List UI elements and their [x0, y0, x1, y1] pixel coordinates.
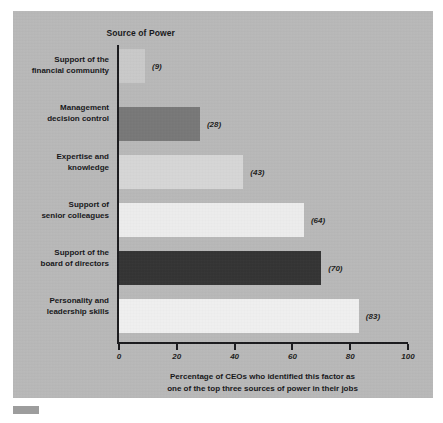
bar-senior-colleagues[interactable] — [119, 203, 304, 237]
category-label-line: Expertise and — [13, 152, 109, 163]
bar-expertise-knowledge[interactable] — [119, 155, 243, 189]
category-label-expertise-knowledge: Expertise and knowledge — [13, 152, 109, 173]
y-axis-line — [117, 45, 119, 342]
x-axis-tick-label: 0 — [117, 352, 121, 361]
x-axis-tick-label: 20 — [172, 352, 181, 361]
bar-financial-community[interactable] — [119, 49, 145, 83]
x-axis-caption-line: one of the top three sources of power in… — [117, 383, 408, 395]
x-axis-tick-mark — [176, 344, 178, 350]
x-axis-tick-label: 60 — [288, 352, 297, 361]
category-label-line: Personality and — [13, 296, 109, 307]
bar-personality-leadership[interactable] — [119, 299, 359, 333]
corner-marker — [13, 406, 39, 414]
x-axis-tick-mark — [118, 344, 120, 350]
category-label-board-of-directors: Support of the board of directors — [13, 248, 109, 269]
category-label-line: Support of the — [13, 55, 109, 66]
category-label-line: financial community — [13, 66, 109, 77]
bar-value-label: (70) — [328, 264, 342, 273]
bar-value-label: (28) — [207, 120, 221, 129]
bar-value-label: (64) — [311, 216, 325, 225]
category-label-line: board of directors — [13, 259, 109, 270]
bar-value-label: (83) — [366, 312, 380, 321]
x-axis-caption-line: Percentage of CEOs who identified this f… — [117, 371, 408, 383]
x-axis-tick-mark — [349, 344, 351, 350]
figure-panel: Source of Power Support of the financial… — [13, 11, 433, 398]
plot-area: Support of the financial community Manag… — [13, 11, 433, 398]
bar-value-label: (43) — [250, 168, 264, 177]
x-axis-tick-label: 80 — [346, 352, 355, 361]
bar-value-label: (9) — [152, 62, 162, 71]
bar-board-of-directors[interactable] — [119, 251, 321, 285]
x-axis-tick-label: 100 — [401, 352, 414, 361]
x-axis-tick-mark — [234, 344, 236, 350]
category-label-line: leadership skills — [13, 307, 109, 318]
x-axis-tick-mark — [407, 344, 409, 350]
category-label-financial-community: Support of the financial community — [13, 55, 109, 76]
category-label-line: decision control — [13, 114, 109, 125]
category-label-management-decision-control: Management decision control — [13, 103, 109, 124]
category-label-line: Support of the — [13, 248, 109, 259]
x-axis-tick-label: 40 — [230, 352, 239, 361]
x-axis-caption: Percentage of CEOs who identified this f… — [117, 371, 408, 394]
bar-management-decision-control[interactable] — [119, 107, 200, 141]
category-label-personality-leadership: Personality and leadership skills — [13, 296, 109, 317]
category-label-line: senior colleagues — [13, 211, 109, 222]
category-label-line: Management — [13, 103, 109, 114]
x-axis-line — [117, 342, 408, 344]
category-label-line: Support of — [13, 200, 109, 211]
x-axis-tick-mark — [291, 344, 293, 350]
category-label-line: knowledge — [13, 163, 109, 174]
category-label-senior-colleagues: Support of senior colleagues — [13, 200, 109, 221]
